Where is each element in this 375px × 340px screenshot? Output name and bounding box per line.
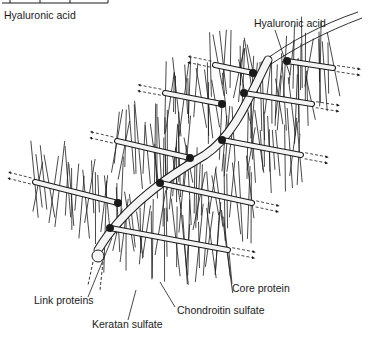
link-protein [106, 224, 114, 232]
link-protein [218, 136, 226, 144]
label-keratan-sulfate: Keratan sulfate [92, 318, 163, 330]
link-protein [186, 154, 194, 162]
label-link-proteins: Link proteins [34, 294, 94, 306]
link-protein [249, 69, 257, 77]
label-hyaluronic-acid-corner: Hyaluronic acid [4, 9, 76, 21]
link-protein [114, 199, 122, 207]
label-hyaluronic-acid: Hyaluronic acid [254, 17, 326, 29]
core-protein-rod [283, 57, 361, 76]
proteoglycan-aggregate-diagram [0, 0, 375, 340]
link-protein [156, 179, 164, 187]
core-protein-rod [106, 224, 256, 259]
label-chondroitin-sulfate: Chondroitin sulfate [177, 304, 265, 316]
link-protein [240, 89, 248, 97]
corner-frame-fragment [2, 0, 108, 3]
link-protein [218, 100, 226, 108]
label-core-protein: Core protein [232, 282, 290, 294]
